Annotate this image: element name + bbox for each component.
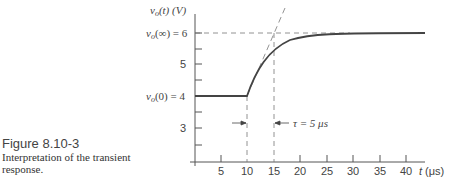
x-tick-label-15: 15 [268,165,280,177]
x-tick-label-25: 25 [321,165,333,177]
response-curve [195,33,425,96]
x-axis-label: t(μs) [419,165,444,177]
x-ticks [221,155,406,162]
tau-dimension-arrows [232,121,289,125]
y-axis-label: vo(t) (V) [150,4,186,18]
tau-label: τ = 5 μs [293,117,328,129]
x-tick-label-40: 40 [400,165,412,177]
y-tick-label-3: 3 [180,122,186,134]
x-tick-label-30: 30 [347,165,359,177]
x-tick-label-10: 10 [241,165,253,177]
y-tick-label-5: 5 [180,58,186,70]
x-tick-label-5: 5 [218,165,224,177]
y-label-initial-value: vo(0) = 4 [146,90,185,104]
x-tick-label-20: 20 [294,165,306,177]
x-tick-label-35: 35 [374,165,386,177]
transient-response-chart: vo(t) (V) vo(∞) = 6 5 vo(0) = 4 3 τ = 5 … [0,0,461,188]
y-ticks [195,33,202,145]
y-label-final-value: vo(∞) = 6 [146,27,188,41]
